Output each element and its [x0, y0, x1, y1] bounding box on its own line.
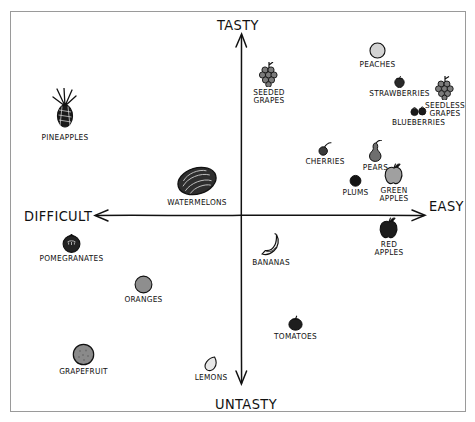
data-point-strawberries: STRAWBERRIES: [394, 76, 405, 88]
data-point-plums: PLUMS: [349, 174, 362, 187]
data-point-green-apples: GREENAPPLES: [383, 163, 405, 185]
lemon-icon: [204, 356, 218, 372]
axis-label-easy: EASY: [429, 198, 464, 215]
data-point-label: GREENAPPLES: [380, 186, 409, 204]
cherry-icon: [318, 142, 332, 156]
pear-icon: [368, 140, 383, 162]
apple-icon: [383, 163, 405, 185]
axis-label-untasty: UNTASTY: [215, 396, 277, 413]
blueberry-icon: [410, 106, 427, 117]
data-point-oranges: ORANGES: [134, 275, 153, 294]
data-point-pomegranates: POMEGRANATES: [62, 234, 81, 253]
data-point-label: GRAPEFRUIT: [59, 367, 108, 375]
tomato-icon: [287, 315, 304, 331]
data-point-label: PLUMS: [343, 188, 369, 196]
watermelon-icon: [176, 165, 218, 197]
data-point-blueberries: BLUEBERRIES: [410, 106, 427, 117]
plum-icon: [349, 174, 362, 187]
data-point-tomatoes: TOMATOES: [287, 315, 304, 331]
data-point-label: SEEDEDGRAPES: [253, 88, 285, 106]
data-point-label: BLUEBERRIES: [392, 118, 445, 126]
data-point-label: PINEAPPLES: [42, 133, 89, 141]
data-point-pineapples: PINEAPPLES: [50, 88, 80, 132]
data-point-seeded-grapes: SEEDEDGRAPES: [258, 62, 280, 87]
data-point-bananas: BANANAS: [260, 233, 282, 257]
orange-icon: [134, 275, 153, 294]
pomegranate-icon: [62, 234, 81, 253]
axis-label-difficult: DIFFICULT: [24, 208, 92, 225]
data-point-label: POMEGRANATES: [40, 254, 104, 262]
apple-icon: [378, 217, 400, 239]
data-point-label: ORANGES: [124, 295, 162, 303]
data-point-label: PEACHES: [360, 60, 396, 68]
grapes-icon: [258, 62, 280, 87]
data-point-seedless-grapes: SEEDLESSGRAPES: [434, 76, 456, 100]
grapefruit-icon: [72, 343, 95, 366]
data-point-label: LEMONS: [195, 373, 228, 381]
data-point-label: REDAPPLES: [375, 240, 404, 258]
grapes-icon: [434, 76, 456, 100]
data-point-label: CHERRIES: [305, 157, 344, 165]
axis-label-tasty: TASTY: [217, 17, 259, 34]
data-point-lemons: LEMONS: [204, 356, 218, 372]
banana-icon: [260, 233, 282, 257]
data-point-watermelons: WATERMELONS: [176, 165, 218, 197]
data-point-pears: PEARS: [368, 140, 383, 162]
pineapple-icon: [50, 88, 80, 132]
data-point-label: BANANAS: [252, 258, 290, 266]
data-point-cherries: CHERRIES: [318, 142, 332, 156]
peach-icon: [369, 42, 386, 59]
data-point-label: TOMATOES: [274, 332, 317, 340]
data-point-label: STRAWBERRIES: [369, 89, 430, 97]
data-point-red-apples: REDAPPLES: [378, 217, 400, 239]
data-point-peaches: PEACHES: [369, 42, 386, 59]
strawberry-icon: [394, 76, 405, 88]
data-point-grapefruit: GRAPEFRUIT: [72, 343, 95, 366]
data-point-label: WATERMELONS: [167, 198, 226, 206]
